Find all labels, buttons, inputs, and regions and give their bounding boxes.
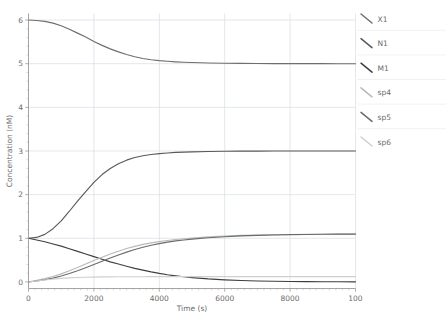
legend-swatch-M1 [361,63,372,72]
axis-ticks: 012345602000400060008000100 [18,16,363,303]
legend-swatch-X1 [361,14,372,23]
plot-area-container: 012345602000400060008000100Time (s)Conce… [0,0,447,320]
x-axis-title: Time (s) [176,304,208,313]
line-chart-svg: 012345602000400060008000100Time (s)Conce… [0,0,447,320]
y-tick-label: 3 [18,147,23,156]
series-line-sp5 [29,234,356,282]
y-tick-label: 2 [18,190,23,199]
series-line-X1 [29,20,356,64]
legend-item-sp5[interactable]: sp5 [361,112,391,122]
legend-label-M1: M1 [378,64,389,73]
y-axis-title: Concentration (nM) [5,115,14,188]
series-line-M1 [29,238,356,282]
legend-item-X1[interactable]: X1 [361,14,388,24]
series-line-sp4 [29,234,356,282]
x-tick-label: 8000 [281,294,300,303]
x-tick-label: 6000 [215,294,234,303]
chart-figure: 012345602000400060008000100Time (s)Conce… [0,0,447,320]
legend-label-X1: X1 [378,15,388,24]
legend-swatch-sp5 [361,112,372,121]
legend-swatch-N1 [361,39,372,48]
legend-label-sp5: sp5 [378,113,392,122]
legend-swatch-sp6 [361,137,372,146]
y-tick-label: 5 [18,59,23,68]
legend: X1N1M1sp4sp5sp6 [357,14,446,147]
y-tick-label: 0 [18,278,23,287]
x-tick-label: 0 [26,294,31,303]
legend-label-N1: N1 [378,39,389,48]
legend-item-N1[interactable]: N1 [361,39,388,49]
legend-swatch-sp4 [361,88,372,97]
y-tick-label: 4 [18,103,23,112]
x-tick-label: 2000 [84,294,103,303]
x-tick-label: 4000 [150,294,169,303]
legend-item-sp6[interactable]: sp6 [361,137,391,147]
legend-item-sp4[interactable]: sp4 [361,88,391,98]
legend-label-sp4: sp4 [378,88,392,97]
y-tick-label: 6 [18,16,23,25]
legend-label-sp6: sp6 [378,138,392,147]
x-tick-label: 100 [348,294,363,303]
y-tick-label: 1 [18,234,23,243]
legend-item-M1[interactable]: M1 [361,63,389,72]
